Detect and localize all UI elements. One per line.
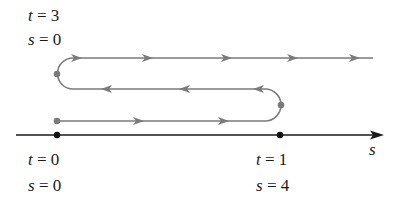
start-point <box>54 118 61 125</box>
label-bottom-left-t: t = 0 <box>28 150 59 169</box>
label-bottom-right-s: s = 4 <box>256 176 290 195</box>
turnaround-point-t3 <box>54 71 61 78</box>
label-top-s: s = 0 <box>28 30 61 49</box>
label-bottom-right-t: t = 1 <box>256 150 287 169</box>
axis-point-s0 <box>54 132 61 139</box>
motion-diagram: t = 3 s = 0 t = 0 s = 0 t = 1 s = 4 s <box>0 0 393 213</box>
s-axis <box>16 131 384 140</box>
label-bottom-left-s: s = 0 <box>28 176 61 195</box>
axis-label: s <box>369 140 376 159</box>
axis-point-s4 <box>277 132 284 139</box>
label-top-t: t = 3 <box>28 6 59 25</box>
turnaround-point-t1 <box>278 102 285 109</box>
